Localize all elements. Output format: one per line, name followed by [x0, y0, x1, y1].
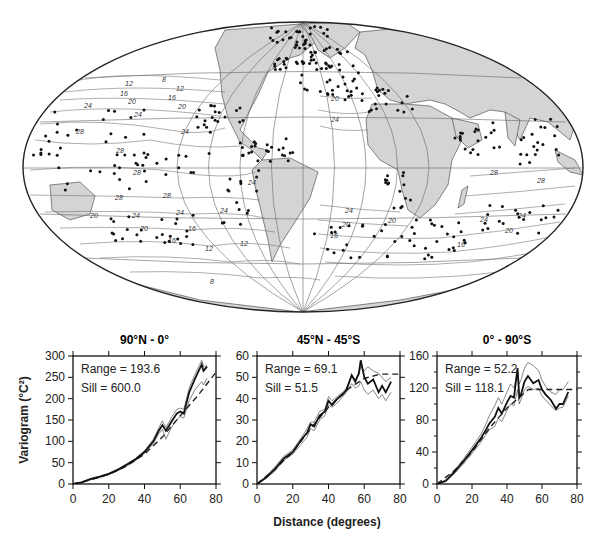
panel-title: 45°N - 45°S: [297, 333, 361, 347]
y-tick-label: 0: [58, 477, 65, 491]
sill-annotation: Sill = 600.0: [81, 381, 141, 395]
y-tick-label: 200: [45, 392, 65, 406]
x-tick-label: 60: [174, 492, 188, 506]
variogram-panel-0-90s: 0° - 90°S02040608004080120160Range = 52.…: [409, 333, 584, 506]
y-tick-label: 50: [52, 456, 66, 470]
y-tick-label: 50: [236, 370, 250, 384]
range-annotation: Range = 52.2: [445, 362, 518, 376]
x-tick-label: 0: [434, 492, 441, 506]
variogram-panels: 90°N - 0°020406080050100150200250300Rang…: [0, 0, 602, 545]
y-tick-label: 20: [236, 434, 250, 448]
y-tick-label: 60: [236, 349, 250, 363]
variogram-panel-90n-0: 90°N - 0°020406080050100150200250300Rang…: [45, 333, 223, 506]
range-annotation: Range = 193.6: [81, 362, 160, 376]
x-tick-label: 40: [138, 492, 152, 506]
sill-annotation: Sill = 118.1: [445, 381, 504, 395]
y-tick-label: 30: [236, 413, 250, 427]
x-tick-label: 80: [570, 492, 584, 506]
panel-title: 90°N - 0°: [120, 333, 169, 347]
series-lower-bound: [257, 382, 391, 484]
x-tick-label: 40: [322, 492, 336, 506]
x-tick-label: 20: [286, 492, 300, 506]
y-tick-label: 0: [242, 477, 249, 491]
x-tick-label: 20: [102, 492, 116, 506]
y-tick-label: 300: [45, 349, 65, 363]
x-tick-label: 20: [465, 492, 479, 506]
x-tick-label: 60: [358, 492, 372, 506]
y-tick-label: 0: [422, 477, 429, 491]
y-axis-title: Variogram (°C²): [17, 376, 31, 463]
y-tick-label: 40: [416, 445, 430, 459]
y-tick-label: 250: [45, 370, 65, 384]
x-tick-label: 0: [254, 492, 261, 506]
y-tick-label: 10: [236, 456, 250, 470]
variogram-panel-45n-45s: 45°N - 45°S0204060800102030405060Range =…: [236, 333, 407, 506]
x-tick-label: 80: [393, 492, 407, 506]
y-tick-label: 100: [45, 434, 65, 448]
range-annotation: Range = 69.1: [265, 362, 338, 376]
x-tick-label: 80: [209, 492, 223, 506]
series-upper-bound: [73, 360, 207, 484]
series-empirical: [257, 360, 391, 484]
x-tick-label: 60: [535, 492, 549, 506]
x-tick-label: 0: [70, 492, 77, 506]
sill-annotation: Sill = 51.5: [265, 381, 318, 395]
y-tick-label: 150: [45, 413, 65, 427]
y-tick-label: 160: [409, 349, 429, 363]
x-axis-title: Distance (degrees): [273, 515, 380, 529]
y-tick-label: 80: [416, 413, 430, 427]
y-tick-label: 40: [236, 392, 250, 406]
y-tick-label: 120: [409, 381, 429, 395]
x-tick-label: 40: [500, 492, 514, 506]
panel-title: 0° - 90°S: [483, 333, 531, 347]
